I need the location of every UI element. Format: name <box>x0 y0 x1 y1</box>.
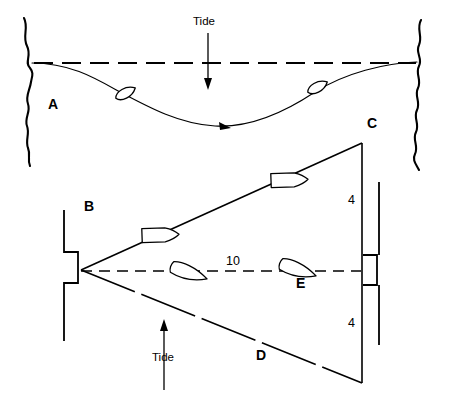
point-label-a: A <box>48 97 58 111</box>
upper-boat-2 <box>306 78 330 97</box>
distance-label-lower-4: 4 <box>348 317 355 330</box>
distance-label-10: 10 <box>226 255 240 268</box>
upper-tide-arrow-head <box>204 78 212 90</box>
right-coastline <box>414 20 421 170</box>
leg-bc <box>81 143 362 270</box>
left-coastline <box>24 18 32 166</box>
pier-wall-b <box>64 210 78 341</box>
lower-tide-label: Tide <box>152 352 174 364</box>
lower-boat-be-1 <box>168 260 209 285</box>
point-label-d: D <box>256 348 266 362</box>
navigation-figure: Tide A B C D E 4 4 10 Tide <box>0 0 451 397</box>
pier-wall-right-inner <box>363 255 377 285</box>
upper-tide-label: Tide <box>193 16 215 28</box>
point-label-e: E <box>296 276 305 290</box>
point-label-c: C <box>367 116 377 130</box>
point-label-b: B <box>84 199 94 213</box>
lower-boat-bc-2 <box>271 172 308 187</box>
figure-canvas <box>0 0 451 397</box>
upper-water-track-curve <box>32 62 417 126</box>
lower-boat-bc-1 <box>142 227 179 242</box>
leg-bd <box>81 270 362 383</box>
lower-tide-arrow-head <box>160 319 168 331</box>
distance-label-upper-4: 4 <box>348 194 355 207</box>
